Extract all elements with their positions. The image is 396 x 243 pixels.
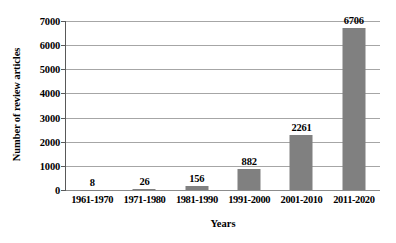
- y-axis-title-text: Number of review articles: [12, 47, 23, 160]
- bar[interactable]: [342, 28, 365, 190]
- y-axis-tick-mark: [61, 166, 66, 167]
- y-axis-tick-mark: [61, 118, 66, 119]
- y-axis-tick-label: 4000: [40, 88, 60, 99]
- bar[interactable]: [185, 186, 208, 190]
- bar-group[interactable]: 882: [223, 21, 275, 190]
- y-axis-title: Number of review articles: [6, 16, 28, 192]
- x-axis-tick-label: 2011-2020: [333, 194, 374, 205]
- x-axis-tick-labels: 1961-19701971-19801981-19901991-20002001…: [66, 194, 380, 210]
- x-axis-tick-label: 2001-2010: [281, 194, 323, 205]
- y-axis-tick-mark: [61, 93, 66, 94]
- y-axis-tick-label: 1000: [40, 160, 60, 171]
- bar-group[interactable]: 156: [171, 21, 223, 190]
- y-axis-tick-label: 0: [55, 185, 60, 196]
- y-axis-tick-mark: [61, 21, 66, 22]
- bar-group[interactable]: 2261: [275, 21, 327, 190]
- y-axis-tick-mark: [61, 190, 66, 191]
- gridline: [66, 190, 380, 191]
- bar-value-label: 156: [189, 173, 204, 184]
- y-axis-tick-mark: [61, 69, 66, 70]
- y-axis-tick-labels: 01000200030004000500060007000: [26, 21, 63, 190]
- y-axis-tick-label: 2000: [40, 136, 60, 147]
- bar-value-label: 26: [139, 176, 149, 187]
- y-axis-tick-label: 5000: [40, 64, 60, 75]
- y-axis-tick-label: 3000: [40, 112, 60, 123]
- x-axis-tick-label: 1961-1970: [71, 194, 113, 205]
- bar-value-label: 6706: [344, 15, 364, 26]
- x-axis-tick-label: 1971-1980: [124, 194, 166, 205]
- bar[interactable]: [133, 189, 156, 190]
- y-axis-tick-mark: [61, 142, 66, 143]
- x-axis-tick-label: 1981-1990: [176, 194, 218, 205]
- x-axis-title: Years: [66, 218, 380, 229]
- y-axis-tick-mark: [61, 45, 66, 46]
- bars-layer: 82615688222616706: [66, 21, 380, 190]
- bar-value-label: 882: [242, 156, 257, 167]
- bar[interactable]: [290, 135, 313, 190]
- y-axis-tick-label: 7000: [40, 16, 60, 27]
- bar[interactable]: [238, 169, 261, 190]
- bar-value-label: 8: [90, 177, 95, 188]
- bar-group[interactable]: 8: [66, 21, 118, 190]
- x-axis-tick-label: 1991-2000: [228, 194, 270, 205]
- bar-chart: Number of review articles 01000200030004…: [0, 0, 396, 243]
- y-axis-tick-label: 6000: [40, 40, 60, 51]
- bar-group[interactable]: 6706: [328, 21, 380, 190]
- bar-value-label: 2261: [291, 122, 311, 133]
- bar-group[interactable]: 26: [118, 21, 170, 190]
- plot-area: 82615688222616706: [66, 21, 380, 190]
